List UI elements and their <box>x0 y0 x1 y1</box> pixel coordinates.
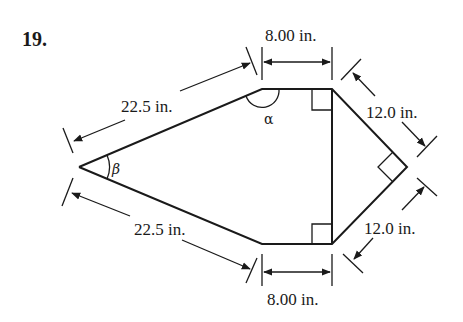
bottom-width-label: 8.00 in. <box>267 290 318 309</box>
lower-right-side-label: 12.0 in. <box>364 219 415 238</box>
alpha-arc-icon <box>246 89 279 107</box>
top-left-side-label: 22.5 in. <box>121 97 172 116</box>
top-width-label: 8.00 in. <box>265 26 316 45</box>
bottom-left-side-label: 22.5 in. <box>134 220 185 239</box>
beta-label: β <box>111 161 120 177</box>
beta-arc-icon <box>107 155 110 179</box>
geometry-figure: 19. α β <box>0 0 463 322</box>
right-angle-top-icon <box>312 89 332 110</box>
problem-number: 19. <box>22 28 47 50</box>
alpha-label: α <box>264 111 274 127</box>
right-angle-bottom-icon <box>312 224 332 244</box>
right-angle-right-icon <box>378 152 393 182</box>
upper-right-side-label: 12.0 in. <box>366 103 417 122</box>
